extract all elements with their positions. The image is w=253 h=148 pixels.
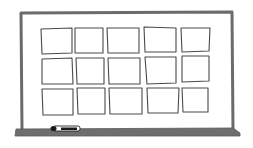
sticky-note-r2-c2 <box>76 58 104 84</box>
sticky-note-r3-c1 <box>42 89 73 115</box>
whiteboard-illustration <box>0 0 253 148</box>
marker-cap <box>51 126 57 131</box>
sticky-note-r3-c4 <box>147 88 179 113</box>
marker-label <box>61 128 77 131</box>
sticky-note-r1-c4 <box>144 27 176 52</box>
sticky-note-r2-c4 <box>145 57 176 84</box>
sticky-note-r1-c3 <box>107 28 139 53</box>
sticky-note-grid <box>41 27 210 115</box>
sticky-note-r1-c1 <box>41 28 72 54</box>
whiteboard-svg <box>0 0 253 148</box>
marker-tray <box>15 128 240 136</box>
sticky-note-r2-c1 <box>42 58 73 84</box>
sticky-note-r2-c5 <box>182 56 209 82</box>
sticky-note-r3-c5 <box>182 88 208 112</box>
marker-icon <box>51 126 81 131</box>
sticky-note-r3-c3 <box>109 88 142 114</box>
sticky-note-r3-c2 <box>77 88 105 114</box>
sticky-note-r1-c5 <box>181 28 210 52</box>
sticky-note-r1-c2 <box>75 28 103 53</box>
sticky-note-r2-c3 <box>108 58 140 84</box>
